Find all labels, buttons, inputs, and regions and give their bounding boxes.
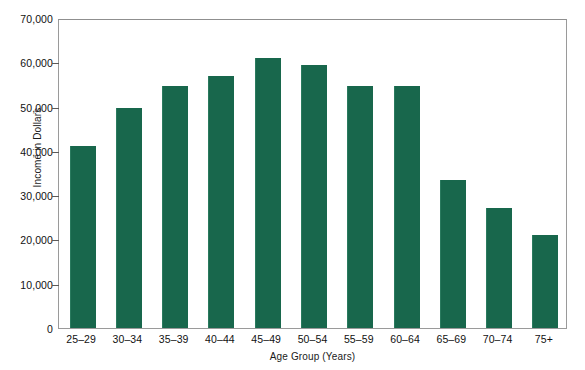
- y-tick-label: 10,000: [0, 279, 53, 290]
- y-tick-label: 0: [0, 324, 53, 335]
- x-tick-label: 50–54: [289, 333, 335, 345]
- y-tick-label: 20,000: [0, 235, 53, 246]
- x-tick-label: 40–44: [197, 333, 243, 345]
- bar: [394, 86, 420, 328]
- x-tick-label: 45–49: [243, 333, 289, 345]
- bar: [486, 208, 512, 328]
- x-tick-label: 55–59: [336, 333, 382, 345]
- bar: [532, 235, 558, 328]
- y-tick-mark: [52, 108, 59, 109]
- x-tick-label: 35–39: [151, 333, 197, 345]
- y-tick-mark: [52, 240, 59, 241]
- bar: [347, 86, 373, 328]
- y-axis-tick-labels: 010,00020,00030,00040,00050,00060,00070,…: [0, 0, 53, 370]
- y-tick-label: 40,000: [0, 146, 53, 157]
- bar: [255, 58, 281, 328]
- bar: [440, 180, 466, 328]
- bar: [116, 108, 142, 328]
- y-tick-label: 50,000: [0, 102, 53, 113]
- bar: [208, 76, 234, 328]
- bar: [70, 146, 96, 328]
- x-tick-label: 25–29: [58, 333, 104, 345]
- x-tick-label: 65–69: [428, 333, 474, 345]
- x-tick-label: 70–74: [474, 333, 520, 345]
- y-tick-label: 30,000: [0, 191, 53, 202]
- y-tick-mark: [52, 285, 59, 286]
- y-tick-mark: [52, 196, 59, 197]
- x-axis-tick-labels: 25–2930–3435–3940–4445–4950–5455–5960–64…: [58, 333, 567, 349]
- bars-layer: [59, 20, 566, 328]
- x-axis-title: Age Group (Years): [58, 351, 567, 362]
- bar-chart: Income in Dollars 010,00020,00030,00040,…: [0, 0, 585, 370]
- x-tick-label: 30–34: [104, 333, 150, 345]
- y-tick-mark: [52, 152, 59, 153]
- y-tick-label: 60,000: [0, 58, 53, 69]
- y-tick-label: 70,000: [0, 14, 53, 25]
- x-tick-label: 75+: [521, 333, 567, 345]
- plot-area: [58, 19, 567, 329]
- bar: [301, 65, 327, 328]
- x-tick-label: 60–64: [382, 333, 428, 345]
- bar: [162, 86, 188, 328]
- y-tick-mark: [52, 63, 59, 64]
